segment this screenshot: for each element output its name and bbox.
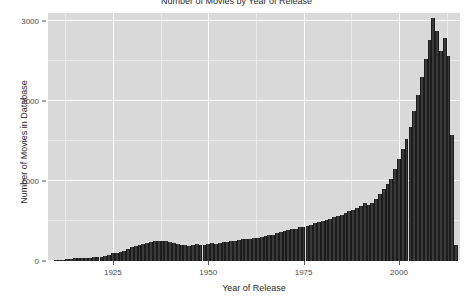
bar <box>450 135 454 261</box>
x-axis: 1925195019752000 <box>48 261 460 285</box>
x-tick-mark-1975 <box>304 261 305 265</box>
y-tick-label-0: 0 <box>35 257 39 266</box>
y-tick-mark-0 <box>42 261 46 262</box>
x-tick-label-2000: 2000 <box>390 268 408 277</box>
bar <box>454 245 458 261</box>
y-tick-mark-2000 <box>42 101 46 102</box>
y-tick-label-3000: 3000 <box>21 17 39 26</box>
x-tick-label-1925: 1925 <box>104 268 122 277</box>
x-tick-label-1950: 1950 <box>199 268 217 277</box>
x-tick-mark-1950 <box>208 261 209 265</box>
y-axis-title: Number of Movies in Database <box>19 42 29 242</box>
x-tick-label-1975: 1975 <box>295 268 313 277</box>
bar-series <box>48 13 460 261</box>
x-tick-mark-1925 <box>113 261 114 265</box>
y-tick-mark-3000 <box>42 21 46 22</box>
y-tick-mark-1000 <box>42 181 46 182</box>
x-tick-mark-2000 <box>399 261 400 265</box>
plot-panel <box>48 13 460 261</box>
histogram-chart: Number of Movies by Year of Release 0100… <box>0 0 473 306</box>
chart-title: Number of Movies by Year of Release <box>0 0 473 6</box>
x-axis-title: Year of Release <box>48 283 460 293</box>
